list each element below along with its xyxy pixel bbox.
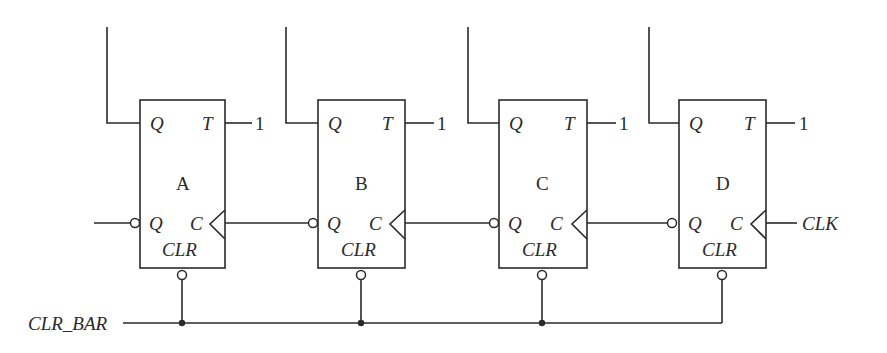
qbar-bubble-d (668, 219, 677, 228)
q-output-wire-d (649, 27, 679, 123)
clr-label-a: CLR (162, 239, 197, 260)
clk-label-a: C (190, 213, 203, 234)
qbar-bubble-c (490, 219, 499, 228)
clr-bar-signal-label: CLR_BAR (28, 313, 108, 334)
t-label-b: T (382, 113, 394, 134)
ripple-counter-diagram: Q T 1 A Q C CLR Q T 1 B Q C CLR Q T (0, 0, 887, 353)
clr-bubble-b (357, 271, 366, 280)
clr-label-b: CLR (341, 239, 376, 260)
q-output-wire-c (468, 27, 499, 123)
clk-label-d: C (730, 213, 743, 234)
qbar-label-d: Q (688, 213, 702, 234)
flip-flop-name-a: A (176, 173, 190, 194)
clr-bubble-d (718, 271, 727, 280)
t-input-value-d: 1 (799, 113, 809, 134)
q-label-c: Q (509, 113, 523, 134)
clr-label-d: CLR (702, 239, 737, 260)
qbar-bubble-a (131, 219, 140, 228)
qbar-bubble-b (309, 219, 318, 228)
t-input-value-a: 1 (255, 113, 265, 134)
clk-label-c: C (550, 213, 563, 234)
flip-flop-b: Q T 1 B Q C CLR (225, 27, 447, 323)
flip-flop-name-b: B (355, 173, 368, 194)
flip-flop-name-d: D (716, 173, 730, 194)
flip-flop-c: Q T 1 C Q C CLR (405, 27, 629, 323)
flip-flop-a: Q T 1 A Q C CLR (94, 27, 265, 323)
t-input-value-c: 1 (619, 113, 629, 134)
qbar-label-c: Q (508, 213, 522, 234)
t-label-a: T (202, 113, 214, 134)
clk-label-b: C (369, 213, 382, 234)
q-label-d: Q (689, 113, 703, 134)
clr-bubble-c (538, 271, 547, 280)
clk-signal-label: CLK (802, 213, 839, 234)
t-input-value-b: 1 (437, 113, 447, 134)
q-output-wire-a (107, 27, 140, 123)
clr-label-c: CLR (522, 239, 557, 260)
flip-flop-name-c: C (536, 173, 549, 194)
q-label-b: Q (328, 113, 342, 134)
flip-flop-d: Q T 1 D Q C CLR (587, 27, 809, 323)
qbar-label-a: Q (149, 213, 163, 234)
junction-dot-a (179, 320, 185, 326)
qbar-label-b: Q (327, 213, 341, 234)
clr-bubble-a (178, 271, 187, 280)
junction-dot-c (539, 320, 545, 326)
q-label-a: Q (150, 113, 164, 134)
junction-dot-b (358, 320, 364, 326)
t-label-c: T (564, 113, 576, 134)
t-label-d: T (744, 113, 756, 134)
q-output-wire-b (286, 27, 318, 123)
